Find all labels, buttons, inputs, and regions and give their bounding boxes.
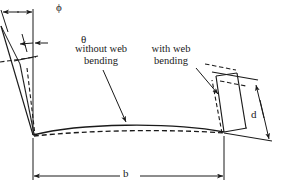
annotation-with-web-bending-line2: bending: [143, 55, 199, 67]
leader-lines-group: [103, 68, 218, 122]
annotation-without-web-bending-line1: without web: [68, 43, 134, 55]
left-flange-dashed: [27, 68, 35, 135]
right-flange-bottom-ext: [224, 133, 272, 141]
annotation-without-web-bending-line2: bending: [68, 55, 134, 67]
figure-web-bending-diagram: without web bending with web bending ϕ θ…: [0, 0, 287, 194]
figure-caption-cropped: [46, 185, 246, 194]
phi-dimension-group: [1, 9, 33, 135]
leader-without-web-bending: [103, 70, 126, 122]
annotation-with-web-bending: with web bending: [143, 43, 199, 67]
leader-with-web-bending: [196, 68, 218, 94]
annotation-with-web-bending-line1: with web: [143, 43, 199, 55]
annotation-without-web-bending: without web bending: [68, 43, 134, 67]
d-dimension-arrow-lower: [260, 100, 269, 139]
right-tip-dashed-ref-upper: [205, 64, 236, 70]
theta-extension-line: [22, 34, 27, 52]
left-flange-group: [0, 26, 38, 135]
right-flange-group: [205, 64, 272, 141]
phi-angle-label: ϕ: [56, 1, 62, 13]
depth-dimension-label: d: [251, 108, 257, 120]
theta-dimension-arrow-left: [20, 43, 33, 44]
theta-dimension-group: [20, 34, 48, 52]
right-tip-dashed-ref-lower: [220, 81, 246, 86]
right-flange-bottom-cap: [224, 128, 247, 132]
web-group: [33, 125, 224, 136]
theta-angle-label: θ: [81, 33, 86, 45]
diagram-linework: [0, 0, 287, 194]
left-flange-outer-solid: [1, 26, 33, 135]
web-dashed-with-bending: [34, 131, 224, 136]
width-dimension-label: b: [123, 167, 129, 179]
right-flange-outer-solid: [237, 73, 246, 128]
d-dimension-group: [256, 85, 269, 139]
